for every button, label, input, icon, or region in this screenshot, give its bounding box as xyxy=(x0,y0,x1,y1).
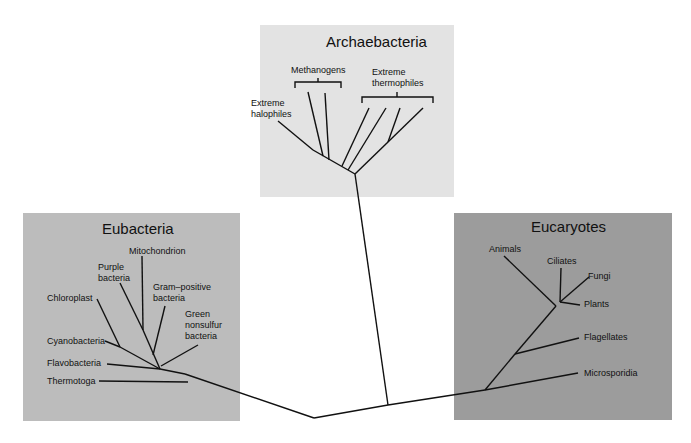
label-green-nonsulfur-1: Green xyxy=(185,309,210,320)
label-ciliates: Ciliates xyxy=(547,256,577,267)
label-animals: Animals xyxy=(489,244,521,255)
label-flavobacteria: Flavobacteria xyxy=(47,358,101,369)
eucaryotes-title: Eucaryotes xyxy=(531,218,606,235)
label-extreme-thermophiles-1: Extreme xyxy=(372,67,406,78)
label-green-nonsulfur-3: bacteria xyxy=(185,331,217,342)
label-fungi: Fungi xyxy=(588,271,611,282)
label-flagellates: Flagellates xyxy=(584,332,628,343)
label-thermotoga: Thermotoga xyxy=(47,376,96,387)
label-extreme-halophiles-2: halophiles xyxy=(251,109,292,120)
label-microsporidia: Microsporidia xyxy=(584,368,638,379)
label-gram-positive-1: Gram–positive xyxy=(153,282,211,293)
label-green-nonsulfur-2: nonsulfur xyxy=(185,320,222,331)
eubacteria-title: Eubacteria xyxy=(102,220,174,237)
label-purple-bacteria-2: bacteria xyxy=(98,273,130,284)
label-cyanobacteria: Cyanobacteria xyxy=(47,336,105,347)
label-extreme-thermophiles-2: thermophiles xyxy=(372,78,424,89)
label-gram-positive-2: bacteria xyxy=(153,293,185,304)
label-plants: Plants xyxy=(584,299,609,310)
label-mitochondrion: Mitochondrion xyxy=(129,246,186,257)
label-purple-bacteria-1: Purple xyxy=(98,262,124,273)
label-extreme-halophiles-1: Extreme xyxy=(251,98,285,109)
archaebacteria-title: Archaebacteria xyxy=(326,33,427,50)
label-methanogens: Methanogens xyxy=(291,65,346,76)
label-chloroplast: Chloroplast xyxy=(47,293,93,304)
